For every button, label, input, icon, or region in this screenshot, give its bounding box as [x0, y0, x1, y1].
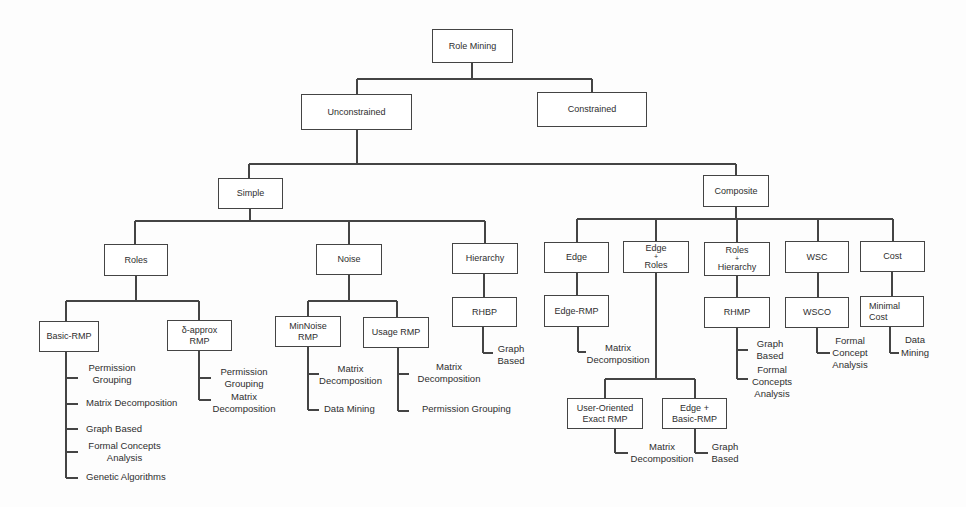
node-label-line: Minimal: [869, 301, 900, 312]
method-label-line: Matrix Decomposition: [86, 397, 177, 409]
method-label-line: Matrix: [211, 391, 277, 403]
node-label-line: RMP: [298, 332, 318, 343]
node-label: Hierarchy: [466, 253, 505, 264]
method-label-line: Analysis: [750, 388, 794, 400]
method-label-line: Matrix: [317, 363, 384, 375]
method-label-line: Grouping: [211, 378, 277, 390]
node-label-line: RMP: [190, 336, 210, 347]
method-label-line: Based: [496, 355, 526, 367]
method-label-line: Decomposition: [629, 453, 695, 465]
node-label: Unconstrained: [327, 107, 385, 118]
method-label-line: Formal Concepts: [86, 440, 163, 452]
method-label-line: Graph: [496, 343, 526, 355]
node-noise: Noise: [316, 244, 382, 275]
method-permission-grouping: Permission Grouping: [422, 403, 511, 415]
node-user-oriented-exact-rmp: User-Oriented Exact RMP: [567, 398, 643, 429]
node-label: Simple: [237, 188, 265, 199]
node-simple: Simple: [218, 178, 283, 209]
method-graph-based: Graph Based: [710, 441, 740, 465]
method-label-line: Graph: [750, 338, 790, 350]
method-label-line: Decomposition: [317, 375, 384, 387]
node-label: Roles: [124, 255, 147, 266]
node-minimal-cost: Minimal Cost: [860, 296, 924, 327]
role-mining-taxonomy-diagram: Role Mining Unconstrained Constrained Si…: [0, 0, 966, 507]
method-label-line: Decomposition: [211, 403, 277, 415]
node-label-line: User-Oriented: [577, 403, 634, 414]
node-constrained: Constrained: [537, 92, 647, 127]
method-label-line: Data Mining: [324, 403, 375, 415]
node-roles-plus-hierarchy: Roles + Hierarchy: [704, 242, 770, 276]
method-label-line: Data: [900, 333, 930, 346]
node-edge-plus-basic-rmp: Edge + Basic-RMP: [662, 398, 727, 429]
node-label: Edge: [566, 252, 587, 263]
method-label-line: Mining: [900, 346, 930, 359]
node-label: Cost: [883, 251, 902, 262]
node-label-line: Hierarchy: [718, 262, 757, 273]
node-usage-rmp: Usage RMP: [363, 317, 429, 348]
node-edge-rmp: Edge-RMP: [544, 295, 609, 327]
node-edge-plus-roles: Edge + Roles: [623, 241, 689, 273]
method-matrix-decomposition: Matrix Decomposition: [317, 363, 384, 387]
node-label-line: Roles: [644, 260, 667, 271]
node-label: Edge-RMP: [554, 306, 598, 317]
method-label-line: Matrix: [585, 342, 651, 354]
method-data-mining: Data Mining: [900, 333, 930, 359]
method-permission-grouping: Permission Grouping: [211, 366, 277, 390]
method-genetic-algorithms: Genetic Algorithms: [86, 471, 166, 483]
node-unconstrained: Unconstrained: [301, 94, 412, 130]
node-label-line: Cost: [869, 312, 888, 323]
node-label: WSCO: [803, 307, 831, 318]
method-label-line: Formal: [750, 364, 794, 376]
node-hierarchy: Hierarchy: [452, 243, 518, 274]
method-matrix-decomposition: Matrix Decomposition: [629, 441, 695, 465]
node-label-line: MinNoise: [289, 321, 327, 332]
method-graph-based: Graph Based: [86, 423, 142, 435]
method-graph-based: Graph Based: [750, 338, 790, 362]
node-delta-approx-rmp: δ-approx RMP: [167, 320, 232, 351]
node-wsco: WSCO: [785, 297, 849, 328]
method-label-line: Decomposition: [585, 354, 651, 366]
method-label-line: Formal: [830, 335, 870, 347]
method-label-line: Genetic Algorithms: [86, 471, 166, 483]
node-role-mining: Role Mining: [432, 29, 513, 63]
node-rhmp: RHMP: [704, 297, 770, 328]
method-matrix-decomposition: Matrix Decomposition: [416, 361, 482, 385]
method-label-line: Analysis: [830, 359, 870, 371]
method-label-line: Based: [710, 453, 740, 465]
node-label-line: Basic-RMP: [672, 414, 717, 425]
method-label-line: Matrix: [629, 441, 695, 453]
method-label-line: Permission: [86, 362, 138, 374]
node-label: Role Mining: [449, 41, 497, 52]
node-label: RHMP: [724, 307, 751, 318]
node-composite: Composite: [703, 175, 769, 207]
method-label-line: Permission Grouping: [422, 403, 511, 415]
method-label-line: Concepts: [750, 376, 794, 388]
node-label: Basic-RMP: [46, 331, 91, 342]
method-formal-concepts-analysis: Formal Concepts Analysis: [86, 440, 163, 464]
node-cost: Cost: [860, 241, 925, 272]
node-wsc: WSC: [785, 241, 849, 273]
node-label-line: Edge +: [680, 403, 709, 414]
node-label: Composite: [714, 186, 757, 197]
method-label-line: Matrix: [416, 361, 482, 373]
method-permission-grouping: Permission Grouping: [86, 362, 138, 386]
node-roles: Roles: [104, 244, 168, 276]
method-graph-based: Graph Based: [496, 343, 526, 367]
method-label-line: Based: [750, 350, 790, 362]
method-formal-concepts-analysis: Formal Concepts Analysis: [750, 364, 794, 400]
method-label-line: Concept: [830, 347, 870, 359]
method-matrix-decomposition: Matrix Decomposition: [585, 342, 651, 366]
method-label-line: Analysis: [86, 452, 163, 464]
method-matrix-decomposition: Matrix Decomposition: [211, 391, 277, 415]
node-label: WSC: [807, 252, 828, 263]
method-label-line: Permission: [211, 366, 277, 378]
node-label-line: δ-approx: [182, 325, 218, 336]
method-formal-concept-analysis: Formal Concept Analysis: [830, 335, 870, 371]
method-label-line: Decomposition: [416, 373, 482, 385]
node-label: RHBP: [472, 307, 497, 318]
method-label-line: Graph: [710, 441, 740, 453]
node-basic-rmp: Basic-RMP: [39, 321, 99, 352]
node-edge: Edge: [544, 242, 609, 273]
method-matrix-decomposition: Matrix Decomposition: [86, 397, 177, 409]
node-minnoise-rmp: MinNoise RMP: [275, 316, 341, 347]
